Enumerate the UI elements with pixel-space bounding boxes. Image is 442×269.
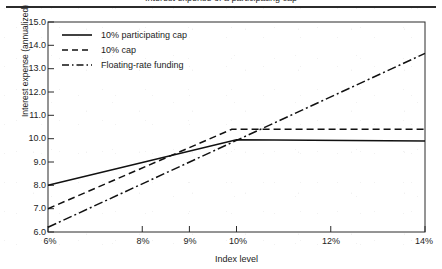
legend-label: Floating-rate funding: [101, 60, 184, 70]
y-axis-ticks: [48, 22, 54, 232]
legend-label: 10% participating cap: [101, 30, 187, 40]
legend-label: 10% cap: [101, 45, 136, 55]
legend-swatch-solid: [62, 30, 92, 40]
legend-swatch-dashed: [62, 45, 92, 55]
legend-item: 10% cap: [62, 42, 187, 57]
legend-item: 10% participating cap: [62, 27, 187, 42]
legend-item: Floating-rate funding: [62, 57, 187, 72]
x-axis-ticks: [48, 226, 425, 232]
legend: 10% participating cap 10% cap Floating-r…: [62, 27, 187, 72]
figure: Interest expense of a participating cap …: [0, 0, 442, 269]
series-line-participating-cap: [48, 140, 425, 186]
legend-swatch-dashdot: [62, 60, 92, 70]
